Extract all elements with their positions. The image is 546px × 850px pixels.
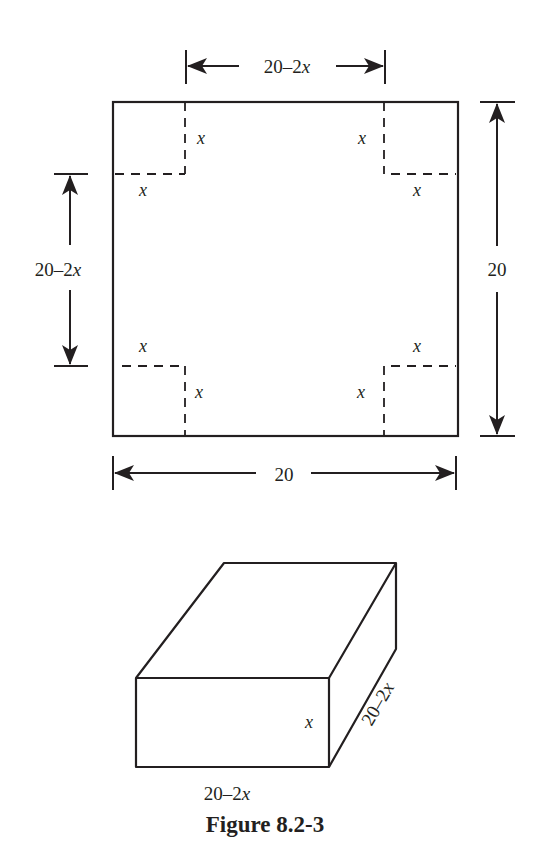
bottom-dimension-label: 20 xyxy=(275,464,294,485)
box-right-face xyxy=(329,563,396,767)
box-top-face xyxy=(136,563,396,678)
corner-label-bottom-left-vertical: x xyxy=(194,382,203,402)
corner-label-top-right-horizontal: x xyxy=(412,180,421,200)
box-height-label: x xyxy=(304,712,313,732)
figure-caption: Figure 8.2-3 xyxy=(206,812,324,837)
sheet-outline xyxy=(113,102,458,436)
square-sheet xyxy=(54,50,515,490)
corner-label-top-right-vertical: x xyxy=(357,128,366,148)
box-depth-label: 20–2x xyxy=(357,678,399,729)
corner-label-top-left-vertical: x xyxy=(196,128,205,148)
box-length-label: 20–2x xyxy=(204,783,251,804)
box-front-face xyxy=(136,678,329,767)
top-dimension-label: 20–2x xyxy=(264,56,311,77)
right-dimension-label: 20 xyxy=(488,259,507,280)
cut-lines xyxy=(115,102,456,436)
left-dimension-label: 20–2x xyxy=(35,259,82,280)
open-box xyxy=(136,563,396,767)
corner-label-top-left-horizontal: x xyxy=(138,180,147,200)
corner-label-bottom-right-vertical: x xyxy=(356,382,365,402)
figure-canvas: 20–2x 20–2x 20 20 x x x x x x x x x 20–2… xyxy=(0,0,546,850)
corner-label-bottom-left-horizontal: x xyxy=(138,336,147,356)
corner-label-bottom-right-horizontal: x xyxy=(412,336,421,356)
